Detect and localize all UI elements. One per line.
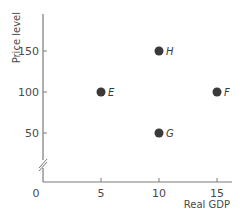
- y-axis-title: Price level: [11, 12, 22, 63]
- data-point-f: [213, 88, 222, 97]
- scatter-chart: 051015 50100150 EFGH Real GDP Price leve…: [0, 0, 240, 216]
- data-point-label: H: [166, 46, 174, 57]
- data-point-label: E: [108, 87, 115, 98]
- x-ticks: 051015: [33, 178, 225, 200]
- data-point-label: G: [166, 128, 174, 139]
- y-tick-label: 50: [25, 127, 39, 140]
- x-tick-label: 10: [152, 187, 166, 200]
- x-axis-title: Real GDP: [184, 199, 230, 210]
- data-point-e: [97, 88, 106, 97]
- data-points: EFGH: [97, 46, 231, 139]
- data-point-label: F: [224, 87, 230, 98]
- x-tick-label: 0: [33, 187, 40, 200]
- data-point-g: [155, 129, 164, 138]
- y-tick-label: 100: [18, 86, 39, 99]
- data-point-h: [155, 47, 164, 56]
- x-tick-label: 5: [98, 187, 105, 200]
